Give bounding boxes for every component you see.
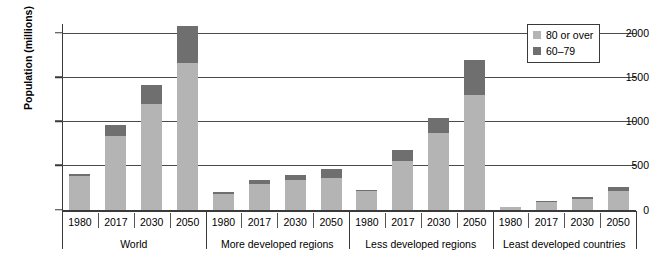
x-tick-separator	[170, 213, 171, 228]
bar-segment-60-79	[464, 60, 485, 94]
x-tick-separator	[385, 213, 386, 228]
bar-segment-80-or-over	[464, 95, 485, 210]
x-tick-label-world-2017: 2017	[98, 211, 134, 233]
x-tick-label-less-developed-regions-2030: 2030	[421, 211, 457, 233]
group-separator	[636, 211, 637, 249]
bar-segment-80-or-over	[392, 161, 413, 209]
x-tick-label-less-developed-regions-2017: 2017	[385, 211, 421, 233]
legend-swatch-80-or-over	[533, 31, 541, 39]
x-tick-separator	[98, 213, 99, 228]
x-tick-label-world-2030: 2030	[134, 211, 170, 233]
bar-least-developed-countries-2017	[536, 201, 557, 209]
bar-world-1980	[69, 174, 90, 210]
bar-segment-80-or-over	[608, 191, 629, 210]
bar-least-developed-countries-2050	[608, 187, 629, 210]
legend-label-60-79: 60–79	[546, 45, 575, 57]
x-tick-label-less-developed-regions-1980: 1980	[349, 211, 385, 233]
bar-segment-80-or-over	[285, 180, 306, 209]
group-separator	[62, 211, 63, 249]
y-tick-mark-1500	[55, 76, 62, 78]
legend-label-80-or-over: 80 or over	[546, 29, 593, 41]
x-tick-separator	[421, 213, 422, 228]
bar-least-developed-countries-2030	[572, 197, 593, 210]
x-tick-label-more-developed-regions-1980: 1980	[206, 211, 242, 233]
bar-less-developed-regions-1980	[356, 190, 377, 210]
bar-segment-80-or-over	[249, 184, 270, 210]
bar-segment-80-or-over	[69, 176, 90, 210]
bar-segment-80-or-over	[213, 194, 234, 210]
x-tick-separator	[277, 213, 278, 228]
x-tick-separator	[528, 213, 529, 228]
bar-world-2030	[141, 85, 162, 210]
group-separator	[206, 211, 207, 249]
x-tick-label-more-developed-regions-2050: 2050	[313, 211, 349, 233]
bar-segment-60-79	[141, 85, 162, 104]
bar-more-developed-regions-2017	[249, 180, 270, 210]
x-tick-label-world-1980: 1980	[62, 211, 98, 233]
x-tick-label-least-developed-countries-2030: 2030	[564, 211, 600, 233]
bar-world-2050	[177, 26, 198, 210]
y-tick-mark-2000	[55, 32, 62, 34]
x-tick-separator	[313, 213, 314, 228]
bar-least-developed-countries-1980	[500, 207, 521, 210]
bar-segment-80-or-over	[500, 207, 521, 209]
x-tick-separator	[134, 213, 135, 228]
bar-segment-80-or-over	[321, 178, 342, 210]
bar-segment-80-or-over	[572, 199, 593, 210]
x-tick-label-least-developed-countries-1980: 1980	[493, 211, 529, 233]
y-tick-mark-1000	[55, 120, 62, 122]
bar-segment-80-or-over	[356, 191, 377, 209]
x-tick-separator	[241, 213, 242, 228]
bar-segment-60-79	[177, 26, 198, 63]
bar-less-developed-regions-2017	[392, 150, 413, 209]
bar-segment-80-or-over	[177, 63, 198, 210]
group-label-least-developed-countries: Least developed countries	[493, 235, 637, 253]
x-tick-separator	[457, 213, 458, 228]
legend: 80 or over 60–79	[527, 24, 600, 63]
x-tick-label-less-developed-regions-2050: 2050	[457, 211, 493, 233]
x-tick-label-world-2050: 2050	[170, 211, 206, 233]
legend-item-60-79: 60–79	[533, 44, 593, 58]
y-tick-mark-0	[55, 209, 62, 211]
group-separator	[493, 211, 494, 249]
bar-world-2017	[105, 125, 126, 210]
group-separator	[349, 211, 350, 249]
legend-swatch-60-79	[533, 47, 541, 55]
x-tick-separator	[564, 213, 565, 228]
bar-segment-60-79	[428, 118, 449, 133]
legend-item-80-or-over: 80 or over	[533, 28, 593, 42]
x-tick-label-least-developed-countries-2017: 2017	[528, 211, 564, 233]
x-tick-separator	[600, 213, 601, 228]
x-tick-label-more-developed-regions-2017: 2017	[241, 211, 277, 233]
bar-segment-80-or-over	[428, 133, 449, 209]
x-tick-label-more-developed-regions-2030: 2030	[277, 211, 313, 233]
group-label-world: World	[62, 235, 206, 253]
bar-chart: Population (millions) 0500100015002000 1…	[0, 0, 649, 274]
bar-more-developed-regions-2050	[321, 169, 342, 210]
y-tick-mark-500	[55, 165, 62, 167]
bar-segment-80-or-over	[536, 202, 557, 209]
bar-segment-80-or-over	[105, 136, 126, 209]
bar-segment-60-79	[321, 169, 342, 178]
bar-more-developed-regions-1980	[213, 192, 234, 210]
bar-segment-60-79	[105, 125, 126, 136]
x-tick-label-least-developed-countries-2050: 2050	[600, 211, 636, 233]
bar-less-developed-regions-2030	[428, 118, 449, 210]
group-label-more-developed-regions: More developed regions	[206, 235, 350, 253]
bar-more-developed-regions-2030	[285, 175, 306, 209]
bar-less-developed-regions-2050	[464, 60, 485, 209]
bar-segment-80-or-over	[141, 104, 162, 209]
y-axis-title: Population (millions)	[22, 0, 34, 138]
group-label-less-developed-regions: Less developed regions	[349, 235, 493, 253]
bar-segment-60-79	[392, 150, 413, 161]
